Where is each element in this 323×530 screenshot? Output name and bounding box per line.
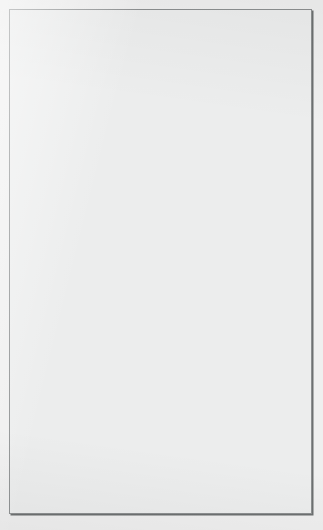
poll-figure-page: "Do you think marriages between homosexu… [0, 0, 323, 530]
figure-frame [9, 9, 312, 514]
